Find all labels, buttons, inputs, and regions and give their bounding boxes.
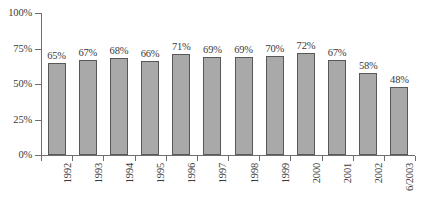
x-axis-tick	[290, 156, 291, 161]
x-axis-label: 6/2003	[404, 163, 415, 191]
bar-group[interactable]: 72%	[290, 13, 321, 155]
x-axis-tick	[103, 156, 104, 161]
x-axis-tick	[135, 156, 136, 161]
x-axis-label: 1996	[186, 163, 197, 183]
bar[interactable]	[110, 58, 128, 155]
bar[interactable]	[359, 73, 377, 155]
y-axis-tick-label: 100%	[8, 8, 32, 19]
x-axis-label: 2001	[342, 163, 353, 183]
bar-group[interactable]: 70%	[259, 13, 290, 155]
x-axis-tick	[259, 156, 260, 161]
bar-group[interactable]: 67%	[72, 13, 103, 155]
bar-value-label: 66%	[141, 48, 160, 59]
bar-group[interactable]: 67%	[322, 13, 353, 155]
x-axis-label: 1993	[93, 163, 104, 183]
x-axis-tick	[72, 156, 73, 161]
bar-value-label: 70%	[265, 43, 284, 54]
x-axis-label: 1994	[124, 163, 135, 183]
y-axis-tick-label: 75%	[13, 44, 32, 55]
bar-value-label: 67%	[328, 47, 347, 58]
bar-value-label: 68%	[110, 45, 129, 56]
x-axis-label: 1998	[249, 163, 260, 183]
bar[interactable]	[79, 60, 97, 155]
y-axis-tick-label: 0%	[18, 150, 32, 161]
bar-group[interactable]: 71%	[166, 13, 197, 155]
bar-chart: 0%25%50%75%100% 65%67%68%66%71%69%69%70%…	[0, 0, 424, 218]
x-axis-label: 1992	[62, 163, 73, 183]
y-axis-tick-label: 25%	[13, 115, 32, 126]
bar[interactable]	[297, 53, 315, 155]
bar[interactable]	[203, 57, 221, 155]
bar[interactable]	[390, 87, 408, 155]
bar[interactable]	[266, 56, 284, 155]
bar-group[interactable]: 66%	[135, 13, 166, 155]
bar-group[interactable]: 48%	[384, 13, 415, 155]
y-axis-tick-label: 50%	[13, 79, 32, 90]
bar[interactable]	[141, 61, 159, 155]
bar-group[interactable]: 58%	[353, 13, 384, 155]
x-axis-tick	[166, 156, 167, 161]
bar-value-label: 67%	[78, 47, 97, 58]
plot-area: 65%67%68%66%71%69%69%70%72%67%58%48%	[41, 13, 415, 155]
x-axis-tick	[415, 156, 416, 161]
x-axis-label: 1999	[280, 163, 291, 183]
bar-value-label: 71%	[172, 41, 191, 52]
bar-group[interactable]: 69%	[197, 13, 228, 155]
x-axis-label: 2000	[311, 163, 322, 183]
x-axis-tick	[228, 156, 229, 161]
bar-value-label: 48%	[390, 74, 409, 85]
bar-group[interactable]: 68%	[103, 13, 134, 155]
bar-group[interactable]: 69%	[228, 13, 259, 155]
bar-value-label: 69%	[234, 44, 253, 55]
bar-value-label: 58%	[359, 60, 378, 71]
bar[interactable]	[328, 60, 346, 155]
x-axis-tick	[384, 156, 385, 161]
x-axis-tick	[41, 156, 42, 161]
bar[interactable]	[172, 54, 190, 155]
x-axis-tick	[353, 156, 354, 161]
bar-value-label: 65%	[47, 50, 66, 61]
bar[interactable]	[235, 57, 253, 155]
x-axis-tick	[322, 156, 323, 161]
x-axis-label: 2002	[373, 163, 384, 183]
bar-value-label: 69%	[203, 44, 222, 55]
x-axis-label: 1997	[217, 163, 228, 183]
bar-value-label: 72%	[297, 40, 316, 51]
bar-group[interactable]: 65%	[41, 13, 72, 155]
bar[interactable]	[48, 63, 66, 155]
x-axis-label: 1995	[155, 163, 166, 183]
x-axis-tick	[197, 156, 198, 161]
